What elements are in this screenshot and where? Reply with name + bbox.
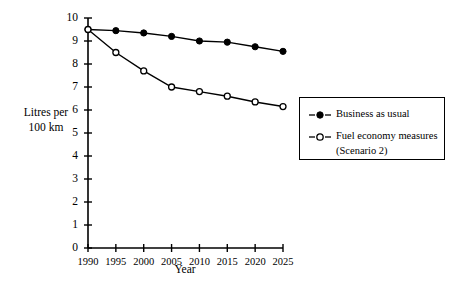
y-axis-tick-label: 2 [56, 195, 78, 208]
data-point-marker [141, 68, 147, 74]
y-axis-tick-label: 1 [56, 218, 78, 231]
legend-marker-open-circle-icon [308, 130, 332, 144]
data-point-marker [169, 84, 175, 90]
legend-marker-filled-circle-icon [308, 108, 332, 122]
y-axis-tick-label: 8 [56, 57, 78, 70]
legend-label-fuel-economy-measures: Fuel economy measures [336, 130, 437, 141]
x-axis-tick-label: 2025 [266, 256, 300, 268]
data-point-marker [113, 28, 119, 34]
data-point-marker [196, 38, 202, 44]
data-point-marker [85, 27, 91, 33]
chart-figure: 012345678910 199019952000200520102015202… [0, 0, 462, 284]
y-axis-title-line1: Litres per [8, 106, 84, 119]
legend-item-business-as-usual: Business as usual [300, 108, 444, 122]
data-point-marker [141, 30, 147, 36]
chart-legend: Business as usual Fuel economy measures … [299, 97, 445, 160]
data-point-marker [224, 93, 230, 99]
legend-label-business-as-usual: Business as usual [336, 108, 410, 119]
y-axis-title-line2: 100 km [8, 121, 84, 134]
legend-item-fuel-economy-measures: Fuel economy measures (Scenario 2) [300, 130, 444, 144]
y-axis-tick-label: 9 [56, 34, 78, 47]
y-axis-tick-label: 0 [56, 241, 78, 254]
data-point-marker [113, 50, 119, 56]
data-point-marker [252, 44, 258, 50]
series-line [88, 30, 283, 107]
y-axis-tick-label: 3 [56, 172, 78, 185]
data-point-marker [280, 104, 286, 110]
y-axis-tick-label: 4 [56, 149, 78, 162]
data-point-marker [224, 39, 230, 45]
legend-label-fuel-economy-scenario: (Scenario 2) [336, 145, 388, 156]
data-series-layer [85, 26, 286, 109]
data-point-marker [168, 33, 174, 39]
y-axis-tick-label: 10 [56, 11, 78, 24]
data-point-marker [280, 48, 286, 54]
x-axis-title: Year [150, 263, 220, 276]
data-point-marker [252, 99, 258, 105]
data-point-marker [196, 89, 202, 95]
y-axis-tick-label: 7 [56, 80, 78, 93]
